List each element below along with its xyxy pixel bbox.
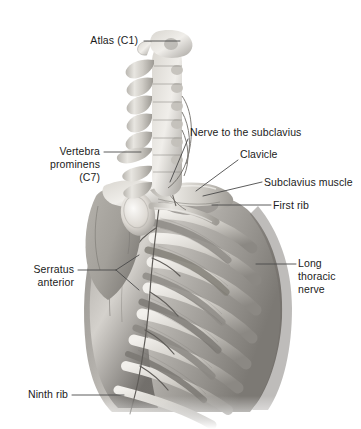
label-long-thoracic-nerve-line-3: nerve <box>298 283 350 296</box>
label-nerve-to-the-subclavius: Nerve to the subclavius <box>190 126 314 139</box>
anatomical-illustration <box>0 0 361 429</box>
label-vertebra-prominens-c7-line-2: prominens <box>22 158 100 171</box>
label-serratus-anterior: Serratusanterior <box>18 263 74 289</box>
label-subclavius-muscle-line-1: Subclavius muscle <box>264 176 359 189</box>
label-serratus-anterior-line-2: anterior <box>18 276 74 289</box>
label-first-rib: First rib <box>273 199 317 212</box>
label-long-thoracic-nerve: Longthoracicnerve <box>298 257 350 296</box>
label-clavicle: Clavicle <box>240 148 286 161</box>
label-clavicle-line-1: Clavicle <box>240 148 286 161</box>
label-atlas-c1: Atlas (C1) <box>72 34 138 47</box>
label-vertebra-prominens-c7-line-3: (C7) <box>22 171 100 184</box>
label-vertebra-prominens-c7-line-1: Vertebra <box>22 145 100 158</box>
label-vertebra-prominens-c7: Vertebraprominens(C7) <box>22 145 100 184</box>
label-long-thoracic-nerve-line-2: thoracic <box>298 270 350 283</box>
label-long-thoracic-nerve-line-1: Long <box>298 257 350 270</box>
label-subclavius-muscle: Subclavius muscle <box>264 176 359 189</box>
label-atlas-c1-line-1: Atlas (C1) <box>72 34 138 47</box>
label-ninth-rib-line-1: Ninth rib <box>18 388 68 401</box>
label-first-rib-line-1: First rib <box>273 199 317 212</box>
label-serratus-anterior-line-1: Serratus <box>18 263 74 276</box>
label-ninth-rib: Ninth rib <box>18 388 68 401</box>
label-nerve-to-the-subclavius-line-1: Nerve to the subclavius <box>190 126 314 139</box>
